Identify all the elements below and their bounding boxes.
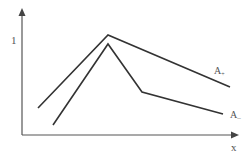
y-tick-label: 1 (11, 34, 17, 46)
series-a-minus-label: A– (230, 109, 241, 122)
y-axis-arrow-icon (19, 8, 26, 16)
a-plus-subscript: + (221, 71, 225, 77)
series-a-minus-line (53, 44, 223, 125)
series-a-plus-label: A+ (214, 65, 225, 77)
a-minus-subscript: – (236, 114, 241, 122)
chart-canvas: 1 x A+ A– (0, 0, 251, 161)
x-axis-arrow-icon (231, 132, 239, 139)
series-a-plus-line (38, 35, 230, 108)
x-axis-label: x (231, 141, 237, 153)
